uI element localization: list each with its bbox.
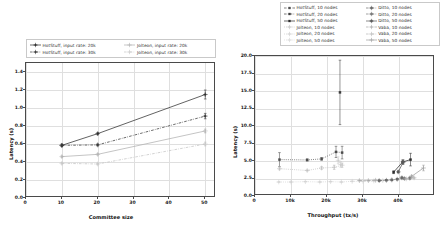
- legend-marker-icon: [284, 5, 295, 11]
- legend-item-label: Jolteon, 20 nodes: [297, 31, 335, 36]
- right-x-axis-title: Throughput (tx/s): [222, 212, 444, 218]
- series-vaba-50-nodes: [409, 165, 426, 179]
- right-legend-item: Ditto, 20 nodes: [366, 11, 436, 17]
- series-jolteon-50-nodes: [276, 178, 385, 184]
- legend-item-label: Jolteon, 10 nodes: [297, 25, 335, 30]
- legend-item-label: HotStuff, 10 nodes: [297, 5, 338, 10]
- right-x-tick-label: 40k: [390, 198, 406, 203]
- left-chart-panel: HotStuff, input rate: 20kJolteon, input …: [0, 0, 222, 227]
- left-y-tick-label: 0.2: [8, 177, 23, 182]
- right-legend-item: Vaba, 10 nodes: [366, 24, 436, 30]
- right-y-tick-label: 15.0: [237, 88, 252, 93]
- right-x-tick-label: 30k: [354, 198, 370, 203]
- right-x-tick-label: 0: [246, 198, 262, 203]
- right-legend-item: Vaba, 50 nodes: [366, 37, 436, 43]
- series-vaba-10-nodes: [357, 178, 378, 183]
- y-tick-mark: [23, 197, 25, 198]
- legend-marker-icon: [366, 37, 377, 43]
- right-y-tick-label: 7.5: [237, 140, 252, 145]
- series-hotstuff-input-rate-30k: [59, 113, 207, 147]
- right-legend-item: Jolteon, 10 nodes: [284, 24, 362, 30]
- legend-item-label: Jolteon, input rate: 30k: [137, 50, 187, 55]
- left-legend-item: HotStuff, input rate: 30k: [30, 49, 120, 55]
- legend-item-label: Ditto, 20 nodes: [378, 12, 412, 17]
- x-tick-mark: [326, 195, 327, 197]
- x-tick-mark: [254, 195, 255, 197]
- legend-marker-icon: [124, 49, 135, 55]
- legend-marker-icon: [30, 42, 41, 48]
- legend-item-label: HotStuff, 50 nodes: [297, 18, 338, 23]
- y-tick-mark: [23, 179, 25, 180]
- legend-marker-icon: [284, 37, 295, 43]
- figure-two-panel-latency-charts: HotStuff, input rate: 20kJolteon, input …: [0, 0, 444, 227]
- series-hotstuff-20-nodes: [339, 60, 342, 124]
- y-tick-mark: [252, 195, 254, 196]
- x-tick-mark: [290, 195, 291, 197]
- legend-marker-icon: [284, 31, 295, 37]
- y-tick-mark: [23, 161, 25, 162]
- series-jolteon-input-rate-20k: [59, 129, 207, 159]
- left-x-tick-label: 10: [53, 200, 69, 205]
- left-x-tick-label: 0: [17, 200, 33, 205]
- left-plot-area: [25, 62, 215, 197]
- legend-item-label: Jolteon, 50 nodes: [297, 38, 335, 43]
- legend-marker-icon: [366, 31, 377, 37]
- left-x-axis-title: Committee size: [0, 214, 222, 220]
- y-tick-mark: [23, 125, 25, 126]
- legend-marker-icon: [284, 18, 295, 24]
- y-tick-mark: [252, 125, 254, 126]
- legend-marker-icon: [284, 11, 295, 17]
- right-y-tick-label: 17.5: [237, 70, 252, 75]
- y-tick-mark: [252, 90, 254, 91]
- right-y-tick-label: 10.0: [237, 123, 252, 128]
- right-chart-panel: HotStuff, 10 nodesDitto, 10 nodesHotStuf…: [222, 0, 444, 227]
- legend-marker-icon: [366, 5, 377, 11]
- right-y-tick-label: 5.0: [237, 158, 252, 163]
- legend-item-label: Ditto, 50 nodes: [378, 18, 412, 23]
- right-y-tick-label: 12.5: [237, 105, 252, 110]
- legend-marker-icon: [284, 24, 295, 30]
- right-y-tick-label: 0.0: [237, 193, 252, 198]
- x-tick-mark: [362, 195, 363, 197]
- left-legend-item: HotStuff, input rate: 20k: [30, 42, 120, 48]
- series-hotstuff-input-rate-20k: [59, 90, 207, 148]
- x-tick-mark: [133, 197, 134, 199]
- series-hotstuff-10-nodes: [278, 146, 343, 166]
- left-x-tick-label: 30: [125, 200, 141, 205]
- y-tick-mark: [23, 143, 25, 144]
- y-tick-mark: [252, 160, 254, 161]
- left-series-layer: [26, 63, 215, 197]
- left-chart-legend: HotStuff, input rate: 20kJolteon, input …: [26, 39, 216, 58]
- x-tick-mark: [25, 197, 26, 199]
- right-legend-item: Vaba, 20 nodes: [366, 31, 436, 37]
- series-ditto-10-nodes: [377, 175, 404, 183]
- left-legend-item: Jolteon, input rate: 30k: [124, 49, 212, 55]
- y-tick-mark: [252, 55, 254, 56]
- right-legend-item: Ditto, 50 nodes: [366, 18, 436, 24]
- left-y-tick-label: 1.4: [8, 69, 23, 74]
- left-y-tick-label: 0.0: [8, 195, 23, 200]
- legend-marker-icon: [124, 42, 135, 48]
- right-chart-legend: HotStuff, 10 nodesDitto, 10 nodesHotStuf…: [280, 2, 440, 46]
- legend-marker-icon: [366, 11, 377, 17]
- y-tick-mark: [252, 178, 254, 179]
- right-y-tick-label: 20.0: [237, 53, 252, 58]
- right-legend-item: HotStuff, 20 nodes: [284, 11, 362, 17]
- x-tick-mark: [398, 195, 399, 197]
- x-tick-mark: [97, 197, 98, 199]
- right-x-tick-label: 10k: [282, 198, 298, 203]
- x-tick-mark: [204, 197, 205, 199]
- right-legend-item: Jolteon, 20 nodes: [284, 31, 362, 37]
- right-y-tick-label: 2.5: [237, 175, 252, 180]
- legend-marker-icon: [30, 49, 41, 55]
- x-tick-mark: [61, 197, 62, 199]
- y-tick-mark: [252, 108, 254, 109]
- legend-item-label: Jolteon, input rate: 20k: [137, 43, 187, 48]
- right-legend-item: Jolteon, 50 nodes: [284, 37, 362, 43]
- legend-item-label: HotStuff, input rate: 30k: [43, 50, 96, 55]
- right-legend-item: HotStuff, 10 nodes: [284, 5, 362, 11]
- y-tick-mark: [23, 71, 25, 72]
- legend-item-label: HotStuff, input rate: 20k: [43, 43, 96, 48]
- left-x-tick-label: 50: [196, 200, 212, 205]
- series-ditto-50-nodes: [396, 160, 406, 175]
